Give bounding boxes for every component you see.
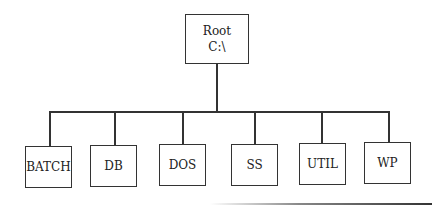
node-label: WP (377, 155, 397, 171)
child-connector (388, 111, 390, 143)
node-batch: BATCH (25, 146, 72, 188)
child-connector (182, 111, 184, 145)
node-label: DOS (169, 157, 197, 173)
node-util: UTIL (299, 143, 346, 185)
root-path: C:\ (208, 39, 225, 55)
child-connector (49, 111, 51, 147)
horizontal-bus (49, 111, 389, 113)
node-dos: DOS (159, 144, 206, 186)
node-label: UTIL (307, 156, 338, 172)
root-node: Root C:\ (185, 14, 249, 64)
node-label: BATCH (26, 159, 70, 175)
root-connector (216, 64, 218, 111)
node-db: DB (90, 145, 137, 187)
child-connector (321, 111, 323, 144)
page-edge-divider (210, 203, 432, 205)
child-connector (114, 111, 116, 146)
root-label: Root (203, 23, 231, 39)
node-label: SS (246, 157, 262, 173)
child-connector (254, 111, 256, 145)
node-ss: SS (231, 144, 278, 186)
node-wp: WP (364, 142, 411, 184)
node-label: DB (104, 158, 122, 174)
